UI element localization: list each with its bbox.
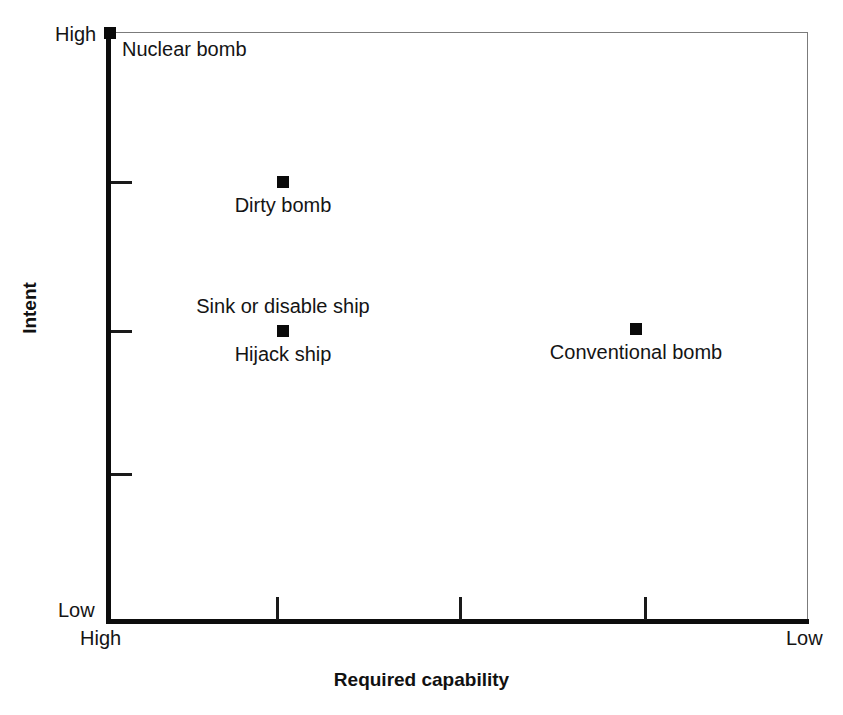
y-axis-tick-3 [111,473,132,476]
point-marker [277,176,289,188]
y-axis-title: Intent [19,253,41,363]
point-marker [277,325,289,337]
point-label-conventional-bomb: Conventional bomb [550,341,722,363]
x-axis-high-label: High [80,628,121,648]
point-marker [104,27,116,39]
y-axis-line [106,30,111,624]
y-axis-tick-1 [111,181,132,184]
point-label-nuclear-bomb: Nuclear bomb [122,38,247,60]
point-label-hijack-ship: Hijack ship [235,343,332,365]
x-axis-tick-1 [276,597,279,620]
x-axis-title: Required capability [0,669,843,691]
y-axis-high-label: High [55,24,96,44]
point-marker [630,323,642,335]
y-axis-tick-2 [111,330,132,333]
scatter-chart: High Low High Low Required capability In… [0,0,843,715]
x-axis-tick-3 [644,597,647,620]
x-axis-low-label: Low [786,628,823,648]
point-label-dirty-bomb: Dirty bomb [235,194,332,216]
x-axis-line [106,619,809,624]
point-label-sink-or-disable-ship: Sink or disable ship [196,295,369,317]
y-axis-low-label: Low [58,600,95,620]
plot-frame [108,32,808,622]
x-axis-tick-2 [459,597,462,620]
